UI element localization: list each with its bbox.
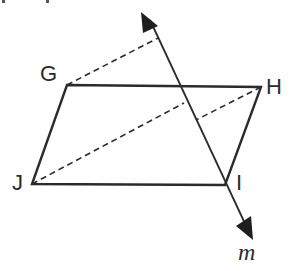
diagram-canvas: G H I J m: [0, 0, 290, 271]
parallelogram-ghij: [32, 85, 261, 185]
dashed-segment-g: [67, 38, 158, 85]
line-m: [150, 20, 248, 230]
cropped-text-fragment: [46, 0, 49, 3]
arrowhead-bottom-icon: [236, 216, 253, 240]
vertex-label-h: H: [266, 76, 282, 98]
vertex-label-g: G: [40, 63, 57, 85]
line-label-m: m: [238, 240, 255, 264]
dashed-segment-j: [32, 103, 184, 184]
cropped-text-fragment: [2, 0, 5, 3]
vertex-label-i: I: [236, 172, 242, 194]
vertex-label-j: J: [12, 172, 23, 194]
reflection-diagram: [0, 0, 290, 271]
